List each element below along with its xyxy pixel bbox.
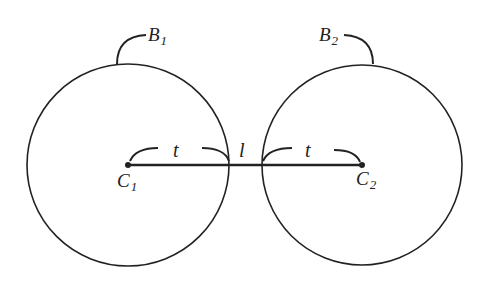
b1-leader-line — [117, 35, 146, 64]
t-right-brace-start — [263, 148, 292, 161]
l-middle-label: l — [239, 139, 245, 161]
b1-label: B1 — [148, 24, 167, 48]
t-right-label: t — [305, 139, 311, 161]
t-left-brace-start — [130, 148, 158, 161]
two-balls-diagram: B1 B2 t t l C1 C2 — [0, 0, 487, 282]
t-left-brace-end — [202, 148, 229, 161]
c1-label: C1 — [117, 170, 137, 194]
t-right-brace-end — [334, 150, 360, 162]
t-left-label: t — [173, 139, 179, 161]
b2-leader-line — [344, 35, 373, 64]
c2-label: C2 — [356, 168, 377, 192]
center-c1-point — [125, 162, 131, 168]
b2-label: B2 — [319, 24, 339, 48]
